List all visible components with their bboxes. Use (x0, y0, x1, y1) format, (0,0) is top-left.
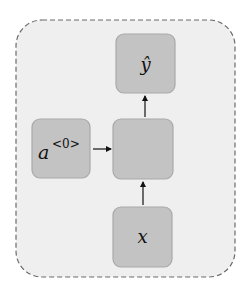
node-x-label: x (137, 226, 147, 247)
node-cell (113, 119, 173, 179)
node-y-hat-label: ŷ (139, 54, 151, 75)
rnn-cell-diagram: ŷ a <0> x (0, 0, 248, 293)
node-a0-superscript: <0> (52, 137, 80, 151)
node-a0-label: a (38, 141, 49, 163)
node-a0: a <0> (32, 119, 90, 178)
node-y-hat: ŷ (116, 34, 175, 93)
node-x: x (113, 207, 172, 267)
